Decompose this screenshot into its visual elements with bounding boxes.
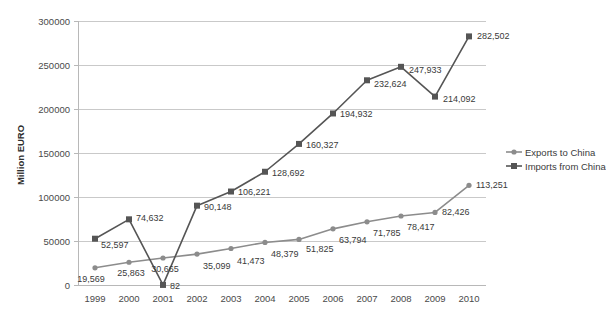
legend-marker xyxy=(511,163,517,169)
legend-marker xyxy=(511,149,516,154)
data-point-label: 106,221 xyxy=(238,187,271,197)
x-tick-label: 2009 xyxy=(424,293,445,304)
data-point-label: 19,569 xyxy=(77,274,105,284)
data-point-marker xyxy=(262,169,268,175)
data-point-label: 41,473 xyxy=(237,256,265,266)
data-point-label: 113,251 xyxy=(476,180,508,190)
data-point-marker xyxy=(126,260,131,265)
x-tick-label: 2002 xyxy=(186,293,207,304)
y-tick-label: 0 xyxy=(65,280,70,291)
data-point-marker xyxy=(194,252,199,257)
data-point-marker xyxy=(466,183,471,188)
x-tick-label: 2006 xyxy=(322,293,343,304)
data-point-label: 128,692 xyxy=(272,168,305,178)
data-point-marker xyxy=(330,226,335,231)
y-tick-label: 50000 xyxy=(44,236,70,247)
data-point-label: 51,825 xyxy=(306,244,334,254)
y-tick-label: 250000 xyxy=(38,60,70,71)
y-axis-title: Million EURO xyxy=(15,125,26,185)
data-point-label: 232,624 xyxy=(374,79,407,89)
x-tick-label: 2005 xyxy=(288,293,309,304)
data-point-label: 160,327 xyxy=(306,140,339,150)
data-point-marker xyxy=(160,282,166,288)
line-chart: 050000100000150000200000250000300000 199… xyxy=(0,0,606,321)
chart-canvas: 050000100000150000200000250000300000 199… xyxy=(0,0,606,321)
data-point-label: 35,099 xyxy=(203,261,231,271)
data-point-marker xyxy=(92,236,98,242)
legend-item-label: Imports from China xyxy=(525,161,606,172)
data-point-marker xyxy=(466,33,472,39)
x-tick-label: 2010 xyxy=(458,293,479,304)
y-tick-label: 300000 xyxy=(38,16,70,27)
data-point-label: 82,426 xyxy=(442,207,470,217)
data-point-marker xyxy=(398,64,404,70)
data-point-marker xyxy=(296,237,301,242)
data-point-label: 63,794 xyxy=(339,235,367,245)
data-point-marker xyxy=(228,246,233,251)
data-point-label: 74,632 xyxy=(136,213,164,223)
data-point-marker xyxy=(194,203,200,209)
y-tick-label: 150000 xyxy=(38,148,70,159)
data-point-marker xyxy=(432,94,438,100)
data-point-label: 214,092 xyxy=(443,94,476,104)
data-point-marker xyxy=(92,265,97,270)
data-point-label: 82 xyxy=(170,281,180,291)
x-tick-label: 2007 xyxy=(356,293,377,304)
data-point-label: 25,863 xyxy=(117,268,145,278)
data-point-label: 52,597 xyxy=(101,240,129,250)
data-point-marker xyxy=(126,216,132,222)
x-tick-label: 2003 xyxy=(220,293,241,304)
data-point-marker xyxy=(296,141,302,147)
data-point-marker xyxy=(364,77,370,83)
data-point-label: 78,417 xyxy=(407,222,435,232)
legend-item-label: Exports to China xyxy=(525,147,596,158)
x-tick-label: 2001 xyxy=(152,293,173,304)
y-tick-label: 200000 xyxy=(38,104,70,115)
data-point-label: 282,502 xyxy=(477,31,510,41)
data-point-marker xyxy=(330,110,336,116)
data-point-label: 71,785 xyxy=(373,228,401,238)
y-tick-label: 100000 xyxy=(38,192,70,203)
x-tick-label: 2000 xyxy=(118,293,139,304)
data-point-marker xyxy=(398,213,403,218)
data-point-marker xyxy=(262,240,267,245)
x-tick-label: 1999 xyxy=(84,293,105,304)
data-point-label: 90,148 xyxy=(204,202,232,212)
x-tick-label: 2008 xyxy=(390,293,411,304)
data-point-marker xyxy=(364,219,369,224)
data-point-label: 30,665 xyxy=(151,264,179,274)
data-point-marker xyxy=(432,210,437,215)
data-point-marker xyxy=(160,255,165,260)
data-point-marker xyxy=(228,189,234,195)
data-point-label: 247,933 xyxy=(409,65,442,75)
data-point-label: 194,932 xyxy=(340,109,373,119)
x-tick-label: 2004 xyxy=(254,293,275,304)
data-point-label: 48,379 xyxy=(271,249,299,259)
